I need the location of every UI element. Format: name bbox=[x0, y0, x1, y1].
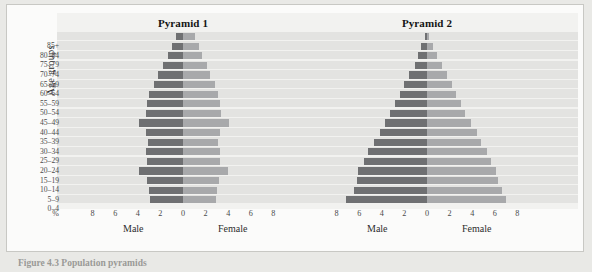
female-bar bbox=[427, 187, 502, 194]
male-bar bbox=[395, 100, 427, 107]
pyramid-bar-row bbox=[57, 91, 578, 98]
male-bar bbox=[390, 110, 427, 117]
male-bar bbox=[418, 52, 427, 59]
male-bar bbox=[415, 62, 427, 69]
male-bar bbox=[357, 177, 427, 184]
age-group-label: 25–29 bbox=[15, 156, 59, 165]
x-tick-label: 6 bbox=[351, 209, 367, 218]
female-bar bbox=[427, 139, 481, 146]
pyramid-title: Pyramid 2 bbox=[337, 17, 517, 29]
female-axis-label: Female bbox=[442, 223, 512, 234]
male-bar bbox=[385, 119, 427, 126]
age-group-label: 65–69 bbox=[15, 80, 59, 89]
age-group-label: 30–34 bbox=[15, 147, 59, 156]
female-bar bbox=[427, 71, 447, 78]
percent-axis-label: % bbox=[15, 209, 59, 218]
male-bar bbox=[404, 81, 427, 88]
x-tick-label: 4 bbox=[374, 209, 390, 218]
age-group-label: 45–49 bbox=[15, 118, 59, 127]
pyramid-bar-row bbox=[57, 33, 578, 40]
age-group-axis: 85+80–8475–7970–7465–6960–6455–5950–5445… bbox=[15, 33, 59, 213]
pyramid-bar-row bbox=[57, 196, 578, 203]
x-tick-label: 0 bbox=[419, 209, 435, 218]
female-bar bbox=[427, 81, 452, 88]
x-tick-label: 6 bbox=[487, 209, 503, 218]
female-bar bbox=[427, 91, 456, 98]
male-bar bbox=[358, 167, 427, 174]
pyramid-bar-row bbox=[57, 62, 578, 69]
pyramid-bar-row bbox=[57, 119, 578, 126]
male-bar bbox=[368, 148, 427, 155]
x-tick-label: 2 bbox=[396, 209, 412, 218]
age-group-label: 75–79 bbox=[15, 60, 59, 69]
female-bar bbox=[427, 62, 442, 69]
pyramid-bar-row bbox=[57, 43, 578, 50]
female-bar bbox=[427, 167, 496, 174]
pyramid-bar-row bbox=[57, 158, 578, 165]
male-bar bbox=[346, 196, 427, 203]
pyramid-bar-row bbox=[57, 177, 578, 184]
male-bar bbox=[374, 139, 427, 146]
figure-caption: Figure 4.3 Population pyramids bbox=[18, 258, 438, 268]
pyramid-bar-row bbox=[57, 129, 578, 136]
age-group-label: 15–19 bbox=[15, 176, 59, 185]
pyramid-bar-row bbox=[57, 167, 578, 174]
age-group-label: 50–54 bbox=[15, 108, 59, 117]
age-group-label: 55–59 bbox=[15, 99, 59, 108]
pyramid-bar-row bbox=[57, 52, 578, 59]
pyramid-bar-row bbox=[57, 71, 578, 78]
age-group-label: 5–9 bbox=[15, 195, 59, 204]
pyramid-2: Pyramid 2864202468MaleFemale bbox=[57, 13, 578, 209]
male-axis-label: Male bbox=[342, 223, 412, 234]
age-group-label: 10–14 bbox=[15, 185, 59, 194]
age-group-label: 85+ bbox=[15, 41, 59, 50]
male-bar bbox=[380, 129, 427, 136]
pyramid-bar-row bbox=[57, 187, 578, 194]
female-bar bbox=[427, 100, 461, 107]
figure-card: Age groups 85+80–8475–7970–7465–6960–645… bbox=[6, 4, 584, 252]
x-tick-label: 8 bbox=[329, 209, 345, 218]
age-group-label: 70–74 bbox=[15, 70, 59, 79]
female-bar bbox=[427, 110, 465, 117]
female-bar bbox=[427, 129, 477, 136]
female-bar bbox=[427, 52, 437, 59]
male-bar bbox=[400, 91, 427, 98]
female-axis-label: Female bbox=[198, 223, 268, 234]
x-tick-label: 2 bbox=[442, 209, 458, 218]
female-bar bbox=[427, 177, 498, 184]
pyramid-bar-row bbox=[57, 110, 578, 117]
male-axis-label: Male bbox=[98, 223, 168, 234]
pyramid-bar-row bbox=[57, 148, 578, 155]
age-group-label: 60–64 bbox=[15, 89, 59, 98]
male-bar bbox=[364, 158, 427, 165]
age-group-label: 35–39 bbox=[15, 137, 59, 146]
male-bar bbox=[354, 187, 427, 194]
pyramid-bar-row bbox=[57, 81, 578, 88]
female-bar bbox=[427, 119, 471, 126]
x-tick-label: 4 bbox=[464, 209, 480, 218]
female-bar bbox=[427, 196, 506, 203]
age-group-label: 80–84 bbox=[15, 51, 59, 60]
age-group-label: 20–24 bbox=[15, 166, 59, 175]
age-group-label: 40–44 bbox=[15, 128, 59, 137]
figure-page: Age groups 85+80–8475–7970–7465–6960–645… bbox=[0, 0, 592, 272]
pyramid-bar-row bbox=[57, 100, 578, 107]
pyramid-bar-row bbox=[57, 139, 578, 146]
x-axis-ticks: 864202468MaleFemale bbox=[57, 209, 578, 221]
male-bar bbox=[409, 71, 427, 78]
female-bar bbox=[427, 33, 429, 40]
female-bar bbox=[427, 158, 491, 165]
female-bar bbox=[427, 43, 433, 50]
female-bar bbox=[427, 148, 487, 155]
x-tick-label: 8 bbox=[509, 209, 525, 218]
